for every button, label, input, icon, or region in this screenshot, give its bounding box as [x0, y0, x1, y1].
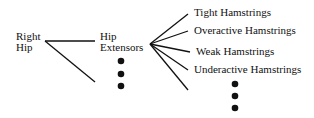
leaf-node: Overactive Hamstrings [194, 25, 296, 36]
root-node: Right Hip [16, 31, 40, 53]
leaf-node: Underactive Hamstrings [194, 64, 301, 75]
root-label-line2: Hip [16, 42, 40, 53]
middle-node: Hip Extensors [100, 31, 143, 53]
leaf-node: Tight Hamstrings [194, 7, 271, 18]
middle-label-line2: Extensors [100, 42, 143, 53]
leaf-node: Weak Hamstrings [196, 46, 274, 57]
